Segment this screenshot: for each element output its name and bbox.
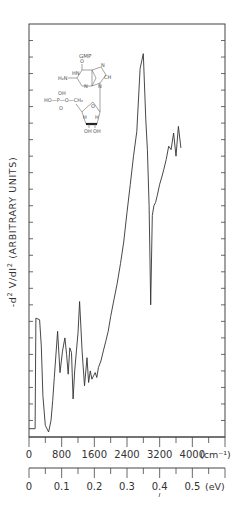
spectrum-chart: -d2 V/dI2 (ARBITRARY UNITS) 080016002400… — [0, 0, 240, 516]
gmp-structure-inset: GMP O HN N CH H₂N N N OH HO—P—O—CH₂ O O … — [44, 53, 111, 134]
x-tick-label: 0 — [26, 481, 32, 492]
x-axis-energy: 00.10.20.30.40.5 (eV) — [26, 468, 225, 497]
svg-text:O: O — [59, 105, 63, 111]
svg-text:HO—P—O—CH₂: HO—P—O—CH₂ — [44, 97, 83, 103]
spectrum-trace — [29, 54, 181, 432]
svg-text:N: N — [84, 83, 88, 89]
x-axis-unit-ev: (eV) — [205, 481, 225, 492]
y-axis-ticks-left — [29, 41, 33, 421]
svg-text:H₂N: H₂N — [58, 75, 68, 81]
x-tick-label: 3200 — [147, 449, 172, 460]
svg-text:OH: OH — [93, 128, 101, 134]
svg-text:N: N — [101, 62, 105, 68]
svg-text:HN: HN — [72, 70, 80, 76]
x-tick-label: 0.2 — [86, 481, 102, 492]
x-tick-label: 800 — [52, 449, 71, 460]
y-axis-ticks-right — [221, 41, 225, 421]
x-tick-label: 0.5 — [184, 481, 200, 492]
svg-text:O: O — [80, 58, 84, 64]
x-axis-wavenumber: 08001600240032004000 (cm⁻¹) — [26, 437, 231, 460]
x-tick-label: 1600 — [82, 449, 107, 460]
x-tick-label: 0.3 — [119, 481, 135, 492]
stray-mark — [159, 493, 160, 497]
plot-frame — [29, 24, 225, 437]
x-tick-label: 0.1 — [54, 481, 70, 492]
svg-text:OH: OH — [58, 90, 66, 96]
x-axis-unit-cm: (cm⁻¹) — [200, 449, 231, 460]
x-tick-label: 0.4 — [152, 481, 168, 492]
x-tick-label: 0 — [26, 449, 32, 460]
svg-text:N: N — [98, 83, 102, 89]
svg-text:H: H — [95, 114, 99, 120]
x-tick-label: 2400 — [114, 449, 139, 460]
svg-text:H: H — [83, 114, 87, 120]
svg-text:O: O — [91, 103, 95, 109]
y-axis-label: -d2 V/dI2 (ARBITRARY UNITS) — [6, 157, 18, 307]
svg-text:OH: OH — [84, 128, 92, 134]
svg-text:CH: CH — [104, 74, 111, 80]
